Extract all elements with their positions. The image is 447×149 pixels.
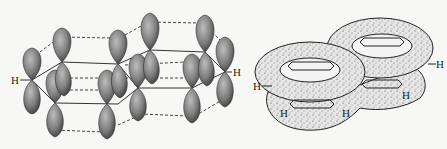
naphthalene-diagram: H H H H H H H bbox=[0, 0, 447, 149]
hydrogen-label-right: H bbox=[233, 66, 241, 78]
hydrogen-label-bottom-3: H bbox=[402, 89, 410, 101]
hydrogen-label-left: H bbox=[11, 74, 19, 86]
electron-cloud-panel: H H H H H bbox=[253, 18, 444, 130]
hydrogen-label-bottom-1: H bbox=[280, 107, 288, 119]
hydrogen-label-right: H bbox=[436, 58, 444, 70]
p-orbital-panel: H H bbox=[11, 13, 241, 139]
hydrogen-label-left: H bbox=[253, 80, 261, 92]
hydrogen-label-bottom-2: H bbox=[342, 107, 350, 119]
